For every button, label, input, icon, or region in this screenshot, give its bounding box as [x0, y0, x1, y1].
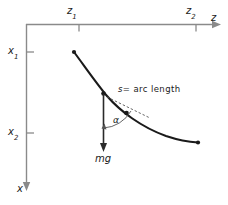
figure-canvas: [0, 0, 228, 205]
x2-axis-label: x2: [8, 127, 18, 140]
mg-force-arrowhead: [100, 143, 107, 152]
curve-end-point: [196, 140, 200, 144]
alpha-angle-arrowhead: [102, 124, 107, 130]
x-axis-label: x: [17, 184, 23, 194]
physics-figure: z1 z2 z x1 x2 x s= arc length α mg: [0, 0, 228, 205]
arc-length-text: = arc length: [123, 84, 181, 94]
z2-subscript: 2: [191, 13, 195, 21]
curve-start-point: [72, 50, 76, 54]
z1-subscript: 1: [72, 13, 76, 21]
alpha-angle-label: α: [113, 116, 119, 125]
x-axis-arrowhead: [23, 182, 30, 191]
z2-axis-label: z2: [186, 6, 196, 19]
x1-axis-label: x1: [8, 46, 18, 59]
brachistochrone-curve: [74, 52, 198, 143]
z1-axis-label: z1: [67, 6, 77, 19]
mg-force-label: mg: [95, 154, 111, 164]
arc-length-annotation: s= arc length: [118, 85, 180, 94]
z-axis-label: z: [211, 13, 216, 23]
x1-subscript: 1: [14, 53, 18, 61]
x2-subscript: 2: [14, 134, 18, 142]
